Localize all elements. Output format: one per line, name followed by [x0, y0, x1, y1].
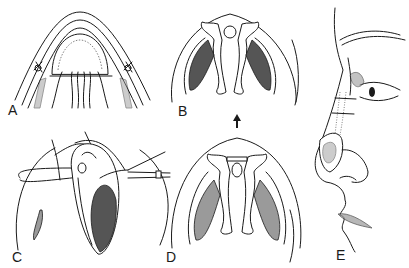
rhinoplasty-figure: A B C D E: [0, 0, 409, 268]
panel-b-drawing: [171, 14, 296, 102]
arrow-up-icon: [233, 114, 241, 128]
panel-d-drawing: [171, 138, 300, 248]
panel-a-drawing: [15, 12, 150, 108]
panel-label-e: E: [336, 248, 345, 262]
panel-c-drawing: [16, 132, 170, 254]
panel-label-b: B: [178, 104, 187, 118]
panel-e-drawing: [290, 8, 405, 262]
panel-label-a: A: [8, 103, 17, 117]
illustration-canvas: [0, 0, 409, 268]
panel-label-c: C: [12, 250, 22, 264]
panel-label-d: D: [166, 250, 176, 264]
